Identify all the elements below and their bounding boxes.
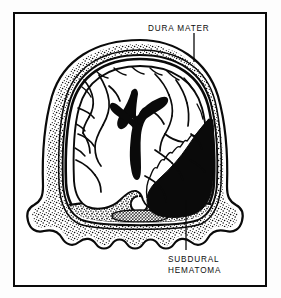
anatomical-diagram: DURA MATER SUBDURAL HEMATOMA <box>0 0 281 298</box>
label-subdural-hematoma-line2: HEMATOMA <box>168 266 221 275</box>
figure-root: DURA MATER SUBDURAL HEMATOMA <box>0 0 281 298</box>
label-dura-mater: DURA MATER <box>148 24 210 33</box>
label-subdural-hematoma-line1: SUBDURAL <box>168 255 219 264</box>
